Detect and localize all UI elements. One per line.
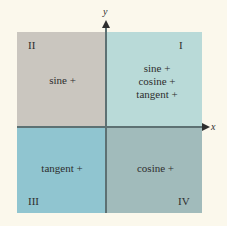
quadrant-i-functions: sine + cosine + tangent + [127, 62, 187, 101]
y-axis [105, 24, 107, 213]
x-axis [17, 126, 205, 128]
x-axis-label: x [211, 121, 215, 132]
quadrant-iii-numeral: III [28, 195, 39, 207]
quadrant-i-sine: sine + [127, 62, 187, 75]
quadrant-i-numeral: I [179, 39, 183, 51]
y-axis-arrow-icon [102, 20, 110, 28]
quadrant-i-cosine: cosine + [127, 75, 187, 88]
quadrant-iv-cosine: cosine + [128, 162, 183, 175]
quadrant-ii-sine: sine + [40, 74, 85, 87]
y-axis-label: y [103, 6, 107, 17]
quadrant-i-tangent: tangent + [127, 88, 187, 101]
quadrant-ii-numeral: II [28, 39, 35, 51]
quadrant-iv-numeral: IV [178, 195, 190, 207]
x-axis-arrow-icon [202, 123, 210, 131]
quadrant-iii-tangent: tangent + [32, 162, 92, 175]
